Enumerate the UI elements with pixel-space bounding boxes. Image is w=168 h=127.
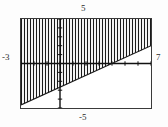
graph-canvas [21, 19, 151, 108]
plot-area[interactable] [21, 19, 151, 108]
x-max-label: 7 [156, 53, 161, 62]
x-min-label: -3 [2, 53, 10, 62]
calculator-screen: 5 -3 7 -5 [0, 0, 168, 127]
y-axis [58, 19, 62, 108]
boundary-line [21, 46, 151, 105]
x-axis [21, 61, 151, 65]
y-min-label: -5 [79, 113, 87, 122]
plot-frame[interactable] [20, 18, 152, 109]
y-max-label: 5 [81, 4, 86, 13]
